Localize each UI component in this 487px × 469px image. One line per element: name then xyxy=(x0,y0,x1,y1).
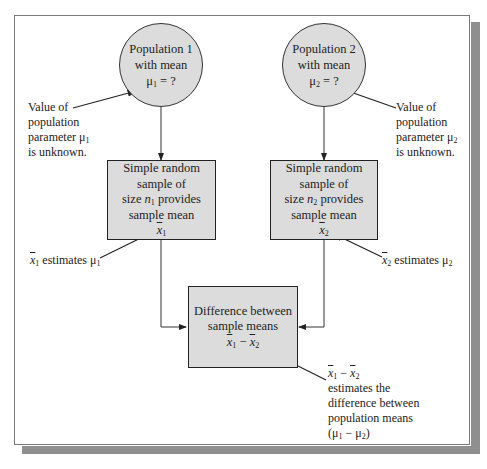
population-2-node: Population 2 with mean μ2 = ? xyxy=(282,23,366,107)
population-1-mean: μ1 = ? xyxy=(146,73,176,89)
note-difference-estimates: x1 − x2 estimates the difference between… xyxy=(328,366,419,441)
population-2-title: Population 2 xyxy=(292,41,356,57)
population-2-mean: μ2 = ? xyxy=(309,73,339,89)
sample-1-node: Simple random sample of size n1 provides… xyxy=(107,160,216,240)
difference-expression: x1 − x2 xyxy=(227,335,259,351)
note-xbar1-estimates-mu1: x1 estimates μ1 xyxy=(30,253,100,268)
sample-1-mean: x1 xyxy=(157,223,167,239)
population-1-title: Population 1 xyxy=(129,41,193,57)
population-1-node: Population 1 with mean μ1 = ? xyxy=(119,23,203,107)
difference-node: Difference between sample means x1 − x2 xyxy=(188,286,298,368)
population-1-subtitle: with mean xyxy=(135,57,187,73)
sample-2-node: Simple random sample of size n2 provides… xyxy=(270,160,378,240)
population-2-subtitle: with mean xyxy=(298,57,350,73)
note-xbar2-estimates-mu2: x2 estimates μ2 xyxy=(382,253,452,268)
note-population-2-unknown: Value of population parameter μ2 is unkn… xyxy=(396,100,457,160)
note-population-1-unknown: Value of population parameter μ1 is unkn… xyxy=(28,100,89,160)
sample-2-mean: x2 xyxy=(319,223,329,239)
